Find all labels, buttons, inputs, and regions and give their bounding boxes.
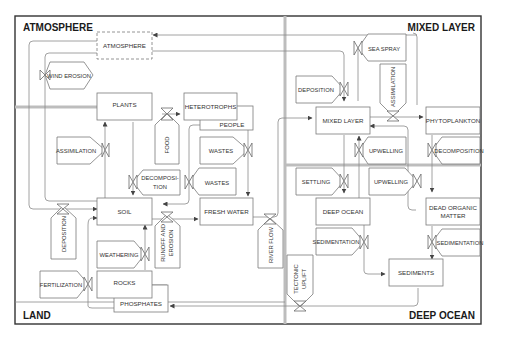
region-label-atmosphere: ATMOSPHERE: [23, 22, 93, 33]
flow-food[interactable]: FOOD: [155, 108, 179, 164]
stock-label: DEAD ORGANIC: [429, 204, 477, 211]
flow-label: WIND EROSION: [47, 73, 91, 79]
flow-label: FOOD: [164, 137, 170, 154]
stock-heterotrophs[interactable]: HETEROTROPHS: [184, 93, 237, 120]
flow-assimilation-land[interactable]: ASSIMILATION: [56, 137, 109, 164]
stock-label: DEEP OCEAN: [323, 208, 363, 215]
flow-label: UPLIFT: [301, 269, 307, 289]
flow-runoff-erosion[interactable]: RUNOFF AND EROSION: [155, 212, 180, 268]
stock-label: SEDIMENTS: [398, 269, 434, 276]
stock-atmosphere[interactable]: ATMOSPHERE: [97, 32, 152, 59]
flow-label: DEPOSITION: [61, 216, 67, 252]
flow-wind-erosion[interactable]: WIND EROSION: [40, 62, 93, 89]
stock-soil[interactable]: SOIL: [97, 198, 152, 225]
flow-label: UPWELLING: [369, 148, 404, 154]
flow-decomposition-ocean[interactable]: DECOMPOSITION: [428, 137, 484, 164]
stock-sediments[interactable]: SEDIMENTS: [389, 259, 443, 286]
stock-rocks[interactable]: ROCKS: [97, 271, 152, 298]
flow-label: WEATHERING: [100, 252, 139, 258]
flow-label: RIVER FLOW: [268, 226, 274, 263]
flow-label: RUNOFF AND: [160, 224, 166, 262]
flow-label: SEA SPRAY: [368, 46, 400, 52]
flow-weathering[interactable]: WEATHERING: [97, 241, 149, 268]
stock-mixed-layer[interactable]: MIXED LAYER: [316, 107, 370, 134]
flow-sedimentation-organic[interactable]: SEDIMENTATION: [428, 229, 483, 256]
flow-label: EROSION: [168, 230, 174, 257]
flow-label: FERTILIZATION: [40, 282, 82, 288]
region-label-mixed-layer: MIXED LAYER: [408, 22, 476, 33]
flow-label: SEDIMENTATION: [313, 239, 360, 245]
region-label-deep-ocean: DEEP OCEAN: [409, 310, 475, 321]
stock-label: ROCKS: [113, 279, 135, 286]
flow-sedimentation-deep[interactable]: SEDIMENTATION: [313, 228, 368, 255]
stock-label: HETEROTROPHS: [185, 103, 237, 110]
stock-label: MIXED LAYER: [322, 117, 364, 124]
flow-assimilation-ocean[interactable]: ASSIMILATION: [380, 64, 406, 121]
stock-label: PHYTOPLANKTON: [426, 117, 480, 124]
flow-fertilization[interactable]: FERTILIZATION: [40, 271, 92, 298]
flow-upwelling-mixed[interactable]: UPWELLING: [355, 137, 406, 164]
phosphorus-cycle-diagram: ATMOSPHERE MIXED LAYER LAND DEEP OCEAN: [0, 0, 511, 340]
flow-upwelling-deep[interactable]: UPWELLING: [369, 168, 421, 195]
stock-plants[interactable]: PLANTS: [97, 93, 152, 120]
flow-label: TECTONIC: [293, 264, 299, 294]
flow-label: DECOMPOSI-: [141, 175, 178, 181]
stock-label: MATTER: [441, 212, 467, 219]
stock-phytoplankton[interactable]: PHYTOPLANKTON: [426, 107, 480, 134]
flow-label: WASTES: [209, 148, 233, 154]
stock-deep-ocean[interactable]: DEEP OCEAN: [316, 198, 370, 225]
flow-wastes-heterotrophs[interactable]: WASTES: [185, 168, 236, 195]
stock-label: PEOPLE: [220, 121, 245, 128]
flow-decomposition-land[interactable]: DECOMPOSI- TION: [129, 170, 180, 195]
flow-label: DECOMPOSITION: [434, 148, 483, 154]
stock-label: PLANTS: [112, 101, 136, 108]
flow-label: DEPOSITION: [298, 87, 334, 93]
flow-wastes-people[interactable]: WASTES: [200, 137, 252, 164]
stock-dead-organic-matter[interactable]: DEAD ORGANIC MATTER: [426, 198, 480, 225]
stock-label: FRESH WATER: [204, 208, 249, 215]
flow-deposition-land[interactable]: DEPOSITION: [51, 204, 76, 259]
flow-settling[interactable]: SETTLING: [296, 168, 348, 195]
flow-sea-spray[interactable]: SEA SPRAY: [354, 34, 406, 61]
flow-label: TION: [153, 184, 167, 190]
stock-label: PHOSPHATES: [120, 300, 162, 307]
flow-label: SETTLING: [302, 179, 331, 185]
stock-label: SOIL: [117, 208, 132, 215]
flow-label: ASSIMILATION: [390, 67, 396, 107]
flow-tectonic-uplift[interactable]: TECTONIC UPLIFT: [287, 255, 313, 311]
flow-river-flow[interactable]: RIVER FLOW: [258, 214, 283, 268]
stock-label: ATMOSPHERE: [103, 42, 146, 49]
flow-label: WASTES: [205, 180, 229, 186]
flow-label: UPWELLING: [374, 179, 409, 185]
region-label-land: LAND: [23, 310, 51, 321]
stock-fresh-water[interactable]: FRESH WATER: [200, 198, 253, 225]
flow-label: SEDIMENTATION: [437, 240, 484, 246]
flow-label: ASSIMILATION: [56, 148, 96, 154]
flow-deposition-ocean[interactable]: DEPOSITION: [296, 76, 348, 103]
